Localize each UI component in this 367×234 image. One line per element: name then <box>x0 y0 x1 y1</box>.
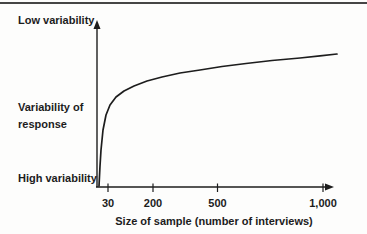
variability-sample-size-figure: Low variability Variability of response … <box>0 0 367 234</box>
x-tick-label-1000: 1,000 <box>309 197 337 210</box>
y-axis-top-label: Low variability <box>18 14 94 27</box>
x-tick-label-200: 200 <box>144 197 162 210</box>
y-axis-title: Variability of response <box>18 99 83 133</box>
y-axis-title-line2: response <box>18 116 83 133</box>
x-axis-title: Size of sample (number of interviews) <box>115 215 312 228</box>
y-axis-title-line1: Variability of <box>18 99 83 116</box>
x-tick-label-500: 500 <box>208 197 226 210</box>
x-tick-label-30: 30 <box>102 197 114 210</box>
y-axis-bottom-label: High variability <box>18 172 97 185</box>
